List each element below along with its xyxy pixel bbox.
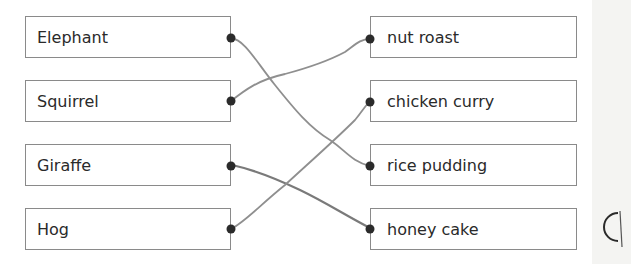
circle-mark-icon: [600, 209, 631, 249]
right-box-honey-cake[interactable]: honey cake: [370, 208, 577, 250]
left-box-label: Giraffe: [37, 156, 91, 175]
right-box-nut-roast[interactable]: nut roast: [370, 16, 577, 58]
left-box-squirrel[interactable]: Squirrel: [25, 80, 231, 122]
line-giraffe-honey-cake: [232, 165, 370, 228]
line-squirrel-nut-roast: [231, 39, 370, 101]
left-box-elephant[interactable]: Elephant: [25, 16, 231, 58]
right-box-label: honey cake: [387, 220, 479, 239]
left-box-giraffe[interactable]: Giraffe: [25, 144, 231, 186]
left-box-label: Squirrel: [37, 92, 99, 111]
line-elephant-rice-pudding: [231, 38, 370, 166]
right-box-rice-pudding[interactable]: rice pudding: [370, 144, 577, 186]
right-box-chicken-curry[interactable]: chicken curry: [370, 80, 577, 122]
left-box-label: Elephant: [37, 28, 108, 47]
line-hog-chicken-curry: [231, 102, 370, 229]
left-box-hog[interactable]: Hog: [25, 208, 231, 250]
right-box-label: chicken curry: [387, 92, 494, 111]
right-box-label: nut roast: [387, 28, 459, 47]
left-box-label: Hog: [37, 220, 69, 239]
right-box-label: rice pudding: [387, 156, 487, 175]
